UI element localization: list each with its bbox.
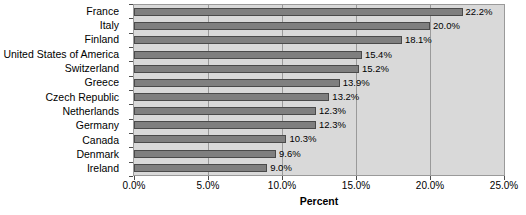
bar-chart: FranceItalyFinlandUnited States of Ameri…	[0, 0, 526, 215]
value-axis-label: 25.0%	[490, 180, 518, 192]
bar-row: 18.1%	[134, 36, 504, 44]
x-axis-title: Percent	[133, 195, 505, 207]
bar-row: 12.3%	[134, 107, 504, 115]
bar-value-label: 12.3%	[319, 105, 346, 116]
category-label: United States of America	[0, 49, 124, 60]
bar-row: 9.0%	[134, 164, 504, 172]
bar[interactable]	[134, 93, 329, 101]
category-label: Czech Republic	[0, 92, 124, 103]
category-label: France	[0, 6, 124, 17]
bar[interactable]	[134, 22, 430, 30]
bar-row: 15.4%	[134, 51, 504, 59]
bar-value-label: 15.2%	[362, 63, 389, 74]
bar-value-label: 20.0%	[433, 20, 460, 31]
plot-area: 22.2%20.0%18.1%15.4%15.2%13.9%13.2%12.3%…	[133, 4, 505, 176]
value-axis-label: 5.0%	[197, 180, 220, 192]
category-label: Canada	[0, 135, 124, 146]
category-label: Denmark	[0, 149, 124, 160]
bar[interactable]	[134, 107, 316, 115]
category-label: Ireland	[0, 163, 124, 174]
bar[interactable]	[134, 51, 362, 59]
bar[interactable]	[134, 36, 402, 44]
bar-row: 9.6%	[134, 150, 504, 158]
category-label: Switzerland	[0, 63, 124, 74]
category-label: Finland	[0, 34, 124, 45]
bar-row: 13.2%	[134, 93, 504, 101]
bar[interactable]	[134, 121, 316, 129]
bar-value-label: 12.3%	[319, 119, 346, 130]
bar[interactable]	[134, 164, 267, 172]
value-axis-label: 0.0%	[123, 180, 146, 192]
value-axis-label: 20.0%	[416, 180, 444, 192]
bar-value-label: 10.3%	[289, 133, 316, 144]
bar-value-label: 9.0%	[270, 162, 292, 173]
bar-value-label: 22.2%	[466, 6, 493, 17]
bar-row: 10.3%	[134, 135, 504, 143]
bar-row: 20.0%	[134, 22, 504, 30]
bar[interactable]	[134, 79, 340, 87]
bar-value-label: 18.1%	[405, 34, 432, 45]
bar[interactable]	[134, 65, 359, 73]
category-label: Italy	[0, 20, 124, 31]
bar[interactable]	[134, 150, 276, 158]
bar-row: 13.9%	[134, 79, 504, 87]
bar[interactable]	[134, 135, 286, 143]
bar-value-label: 13.2%	[332, 91, 359, 102]
bar-row: 15.2%	[134, 65, 504, 73]
plot-inner: 22.2%20.0%18.1%15.4%15.2%13.9%13.2%12.3%…	[134, 5, 504, 175]
bar-row: 12.3%	[134, 121, 504, 129]
category-label: Germany	[0, 120, 124, 131]
bar[interactable]	[134, 8, 463, 16]
category-label: Greece	[0, 77, 124, 88]
category-label: Netherlands	[0, 106, 124, 117]
bar-value-label: 15.4%	[365, 49, 392, 60]
bar-value-label: 9.6%	[279, 148, 301, 159]
value-axis-label: 10.0%	[268, 180, 296, 192]
gridline	[504, 5, 505, 175]
value-axis-label: 15.0%	[342, 180, 370, 192]
category-axis: FranceItalyFinlandUnited States of Ameri…	[0, 4, 124, 176]
bar-row: 22.2%	[134, 8, 504, 16]
bar-value-label: 13.9%	[343, 77, 370, 88]
bar-series: 22.2%20.0%18.1%15.4%15.2%13.9%13.2%12.3%…	[134, 5, 504, 175]
value-axis-labels: 0.0%5.0%10.0%15.0%20.0%25.0%	[133, 180, 505, 193]
